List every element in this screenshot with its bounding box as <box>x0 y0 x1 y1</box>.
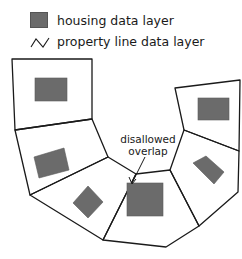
disallowed-overlap-annotation: disallowed overlap <box>118 133 178 157</box>
parcel-map <box>0 0 242 259</box>
annotation-line-1: disallowed <box>118 133 178 145</box>
house-1 <box>35 78 67 101</box>
house-5 <box>193 156 224 184</box>
house-3 <box>73 186 103 218</box>
house-4-overlap <box>127 183 163 216</box>
property-parcel-5 <box>170 130 239 226</box>
house-6 <box>198 98 229 120</box>
house-2 <box>34 148 69 178</box>
annotation-line-2: overlap <box>118 145 178 157</box>
